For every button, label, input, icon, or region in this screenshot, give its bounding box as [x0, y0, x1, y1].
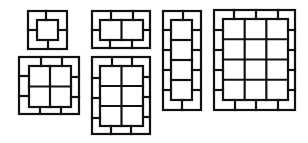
tile-grid-diagram — [0, 0, 308, 143]
fig-2x1 — [92, 11, 150, 48]
fig-1x4 — [163, 11, 201, 110]
fig-1x1 — [28, 11, 67, 49]
fig-2x2 — [19, 57, 79, 114]
fig-3x4 — [214, 10, 295, 110]
diagram-canvas — [0, 0, 308, 143]
inner-grid — [37, 20, 58, 40]
fig-2x3 — [92, 57, 150, 134]
